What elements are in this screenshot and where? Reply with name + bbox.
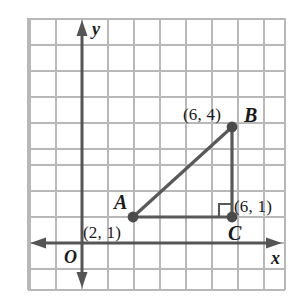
coordinate-plane-figure: A (2, 1) B (6, 4) C (6, 1) x y O: [0, 0, 298, 308]
point-label-A: A: [114, 192, 127, 212]
vertex-dot-A: [128, 212, 139, 223]
point-label-B: B: [244, 105, 257, 125]
point-coord-C: (6, 1): [234, 198, 272, 215]
figure-canvas: [0, 0, 298, 308]
y-axis-label: y: [92, 20, 100, 38]
point-coord-A: (2, 1): [83, 224, 121, 241]
origin-label: O: [64, 248, 77, 266]
vertex-dot-B: [227, 122, 238, 133]
point-label-C: C: [228, 223, 241, 243]
x-axis-label: x: [271, 249, 280, 267]
figure-background: [0, 0, 298, 308]
point-coord-B: (6, 4): [183, 106, 221, 123]
